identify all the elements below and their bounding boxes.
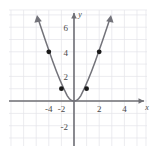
y-tick-label-4: 4 bbox=[64, 48, 69, 58]
x-tick-label-4: 4 bbox=[122, 104, 127, 114]
data-point bbox=[59, 86, 64, 91]
x-tick-label--2: -2 bbox=[58, 104, 66, 114]
data-point bbox=[84, 86, 89, 91]
y-tick-label--2: -2 bbox=[61, 122, 69, 132]
data-point bbox=[97, 49, 102, 54]
x-tick-label-2: 2 bbox=[97, 104, 102, 114]
coordinate-plane-svg: -4 -2 2 4 6 4 2 -2 x y bbox=[0, 0, 156, 153]
y-tick-label-6: 6 bbox=[64, 23, 69, 33]
y-tick-label-2: 2 bbox=[64, 72, 69, 82]
x-tick-label--4: -4 bbox=[45, 104, 53, 114]
graph-figure: -4 -2 2 4 6 4 2 -2 x y bbox=[0, 0, 156, 153]
x-axis-label: x bbox=[144, 103, 149, 112]
data-point bbox=[46, 49, 51, 54]
y-axis-label: y bbox=[77, 10, 82, 19]
